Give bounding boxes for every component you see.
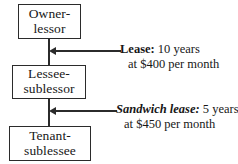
node-owner-lessor-line-1: Owner-	[29, 7, 71, 22]
node-tenant-sublessee-line-1: Tenant-	[29, 129, 71, 144]
node-lessee-sublessor-line-1: Lessee-	[28, 67, 70, 82]
annotation-lease-term: 10 years	[155, 42, 200, 56]
annotation-sandwich-lease-line-2: at $450 per month	[116, 117, 238, 132]
annotation-lease-label: Lease:	[120, 42, 155, 56]
node-lessee-sublessor: Lessee- sublessor	[12, 65, 86, 99]
annotation-sandwich-lease-label: Sandwich lease:	[116, 102, 200, 116]
node-tenant-sublessee-line-2: sublessee	[24, 144, 76, 159]
leader-line-sandwich-lease	[54, 110, 117, 112]
annotation-sandwich-lease-term: 5 years	[200, 102, 238, 116]
node-owner-lessor: Owner- lessor	[18, 4, 81, 39]
arrowhead-sandwich-lease-icon	[49, 107, 56, 115]
node-owner-lessor-line-2: lessor	[33, 22, 65, 37]
arrowhead-lease-icon	[49, 47, 56, 55]
node-lessee-sublessor-line-2: sublessor	[23, 82, 74, 97]
node-tenant-sublessee: Tenant- sublessee	[9, 126, 91, 161]
leader-line-lease	[54, 50, 121, 52]
annotation-sandwich-lease: Sandwich lease: 5 years at $450 per mont…	[116, 102, 238, 133]
lease-hierarchy-diagram: Owner- lessor Lessee- sublessor Tenant- …	[0, 0, 238, 164]
annotation-lease: Lease: 10 years at $400 per month	[120, 42, 219, 73]
annotation-lease-line-2: at $400 per month	[120, 57, 219, 72]
